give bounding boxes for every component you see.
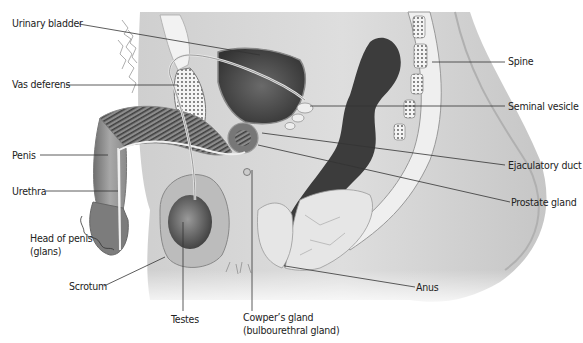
label-anus: Anus (416, 281, 439, 294)
label-prostate-gland: Prostate gland (511, 196, 576, 209)
label-cowpers-line1: Cowper’s gland (243, 311, 339, 324)
label-scrotum: Scrotum (69, 280, 107, 293)
label-ejaculatory-duct: Ejaculatory duct (508, 159, 582, 172)
label-head-of-penis: Head of penis (glans) (30, 232, 93, 258)
label-cowpers-line2: (bulbourethral gland) (243, 324, 339, 337)
anatomy-diagram: Urinary bladder Vas deferens Penis Ureth… (0, 0, 583, 343)
label-cowpers-gland: Cowper’s gland (bulbourethral gland) (243, 311, 339, 337)
label-penis: Penis (12, 149, 36, 162)
label-seminal-vesicle: Seminal vesicle (508, 100, 579, 113)
label-head-of-penis-line1: Head of penis (30, 232, 93, 245)
label-vas-deferens: Vas deferens (12, 78, 70, 91)
prostate-shape (228, 123, 258, 153)
cowpers-gland-shape (244, 169, 251, 176)
label-testes: Testes (171, 313, 199, 326)
label-urethra: Urethra (12, 185, 46, 198)
label-head-of-penis-line2: (glans) (30, 245, 93, 258)
label-spine: Spine (508, 55, 533, 68)
label-urinary-bladder: Urinary bladder (12, 17, 83, 30)
